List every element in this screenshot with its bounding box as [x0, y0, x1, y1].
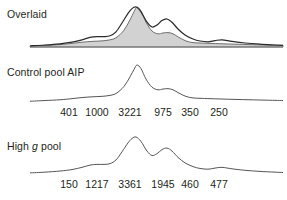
panel-highg-pool: High g pool 150121733611945460477 — [0, 130, 287, 200]
overlaid-control-area — [30, 7, 283, 47]
tick-label: 1945 — [151, 178, 174, 190]
overlaid-plot — [0, 0, 287, 58]
tick-label: 401 — [60, 106, 78, 118]
tick-label: 975 — [154, 106, 172, 118]
tick-label: 350 — [181, 106, 199, 118]
tick-label: 477 — [210, 178, 228, 190]
tick-label: 150 — [60, 178, 78, 190]
tick-label: 3221 — [118, 106, 141, 118]
panel-overlaid: Overlaid — [0, 0, 287, 58]
highg-plot — [0, 130, 287, 180]
tick-label: 1000 — [85, 106, 108, 118]
control-trace-line — [30, 65, 283, 101]
tick-label: 250 — [210, 106, 228, 118]
tick-label: 460 — [181, 178, 199, 190]
panel-control-pool: Control pool AIP 40110003221975350250 — [0, 58, 287, 130]
tick-label: 1217 — [85, 178, 108, 190]
highg-trace-line — [30, 137, 283, 173]
tick-label: 3361 — [118, 178, 141, 190]
control-plot — [0, 58, 287, 108]
figure-container: Overlaid Control pool AIP 40110003221975… — [0, 0, 287, 200]
